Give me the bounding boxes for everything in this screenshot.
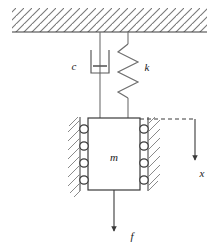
roller-right-3 [140,159,148,167]
damper-label: c [72,60,77,72]
guide-wall-right [148,117,160,191]
ceiling-hatch-fill [12,8,207,32]
guide-wall-right-hatch [148,117,160,191]
spring-label: k [145,61,151,73]
roller-left-1 [80,125,88,133]
spring-coil [118,44,138,98]
roller-left-2 [80,142,88,150]
mass-label: m [110,151,118,163]
roller-right-1 [140,125,148,133]
damper [91,32,109,118]
roller-left-3 [80,159,88,167]
roller-left-4 [80,176,88,184]
diagram-canvas: c k [0,0,219,252]
fixed-support-ceiling [12,8,207,32]
force-label: f [130,230,135,242]
roller-right-4 [140,176,148,184]
displacement-label: x [199,167,205,179]
guide-wall-left [68,117,80,197]
roller-right-2 [140,142,148,150]
spring [118,32,138,118]
mass-spring-damper-diagram: c k [0,0,219,252]
guide-wall-left-hatch [68,117,80,197]
